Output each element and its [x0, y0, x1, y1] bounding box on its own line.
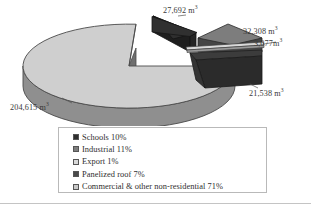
value-label-schools: 27,692 m3	[163, 6, 198, 15]
legend-label-schools: Schools 10%	[82, 133, 127, 142]
legend-swatch-commercial	[73, 184, 79, 190]
value-label-export: 3,077m3	[254, 39, 282, 48]
chart-legend: Schools 10% Industrial 11% Export 1% Pan…	[58, 127, 267, 193]
legend-label-commercial: Commercial & other non-residential 71%	[82, 182, 223, 191]
value-label-industrial: 32,308 m3	[243, 27, 278, 36]
legend-label-export: Export 1%	[82, 157, 119, 166]
legend-item-panelized-roof[interactable]: Panelized roof 7%	[73, 168, 266, 180]
slice-panelized	[190, 50, 262, 88]
slice-panelized-side	[196, 56, 262, 88]
superscript-3: 3	[281, 87, 284, 93]
legend-swatch-schools	[73, 134, 79, 140]
bottom-divider	[0, 203, 311, 204]
legend-item-industrial[interactable]: Industrial 11%	[73, 143, 266, 155]
superscript-3: 3	[279, 37, 282, 43]
leader-line-schools	[178, 15, 186, 16]
value-label-panelized: 21,538 m3	[249, 89, 284, 98]
legend-label-industrial: Industrial 11%	[82, 145, 132, 154]
superscript-3: 3	[275, 25, 278, 31]
legend-item-schools[interactable]: Schools 10%	[73, 131, 266, 143]
legend-label-panelized-roof: Panelized roof 7%	[82, 170, 145, 179]
pie-chart-area: 27,692 m3 32,308 m3 3,077m3 21,538 m3 20…	[0, 0, 311, 126]
legend-swatch-panelized-roof	[73, 171, 79, 177]
legend-swatch-export	[73, 159, 79, 165]
superscript-3: 3	[46, 101, 49, 107]
legend-item-export[interactable]: Export 1%	[73, 156, 266, 168]
superscript-3: 3	[195, 4, 198, 10]
legend-swatch-industrial	[73, 146, 79, 152]
value-label-commercial: 204,615 m3	[10, 103, 49, 112]
chart-figure: 27,692 m3 32,308 m3 3,077m3 21,538 m3 20…	[0, 0, 311, 210]
legend-item-commercial[interactable]: Commercial & other non-residential 71%	[73, 181, 266, 193]
